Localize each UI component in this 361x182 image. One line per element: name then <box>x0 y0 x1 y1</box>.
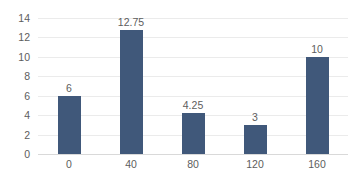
x-axis-tick-80: 80 <box>162 158 224 170</box>
bar-slot-1: 12.75 <box>100 18 162 154</box>
y-axis-tick-4: 4 <box>2 110 30 120</box>
y-axis-tick-14: 14 <box>2 13 30 23</box>
bar-value-label-0: 6 <box>66 83 72 94</box>
x-axis-tick-labels: 0 40 80 120 160 <box>38 158 348 174</box>
y-axis-tick-labels: 14 12 10 8 6 4 2 0 <box>0 18 33 154</box>
bar-0[interactable]: 6 <box>58 96 81 154</box>
x-axis-tick-0: 0 <box>38 158 100 170</box>
y-axis-tick-6: 6 <box>2 91 30 101</box>
bar-series: 6 12.75 4.25 3 10 <box>38 18 348 154</box>
axis-baseline <box>38 154 348 155</box>
bar-slot-2: 4.25 <box>162 18 224 154</box>
y-axis-tick-8: 8 <box>2 71 30 81</box>
y-axis-tick-12: 12 <box>2 32 30 42</box>
y-axis-tick-10: 10 <box>2 52 30 62</box>
bar-value-label-3: 3 <box>252 112 258 123</box>
bar-chart: 14 12 10 8 6 4 2 0 6 12.75 <box>0 0 361 182</box>
bar-slot-4: 10 <box>286 18 348 154</box>
x-axis-tick-40: 40 <box>100 158 162 170</box>
plot-area: 6 12.75 4.25 3 10 <box>38 18 348 154</box>
bar-4[interactable]: 10 <box>306 57 329 154</box>
bar-1[interactable]: 12.75 <box>120 30 143 154</box>
bar-slot-0: 6 <box>38 18 100 154</box>
bar-slot-3: 3 <box>224 18 286 154</box>
y-axis-tick-2: 2 <box>2 130 30 140</box>
bar-2[interactable]: 4.25 <box>182 113 205 154</box>
x-axis-tick-160: 160 <box>286 158 348 170</box>
y-axis-tick-0: 0 <box>2 149 30 159</box>
bar-value-label-2: 4.25 <box>183 100 203 111</box>
bar-value-label-1: 12.75 <box>118 17 144 28</box>
x-axis-tick-120: 120 <box>224 158 286 170</box>
bar-value-label-4: 10 <box>311 44 323 55</box>
bar-3[interactable]: 3 <box>244 125 267 154</box>
